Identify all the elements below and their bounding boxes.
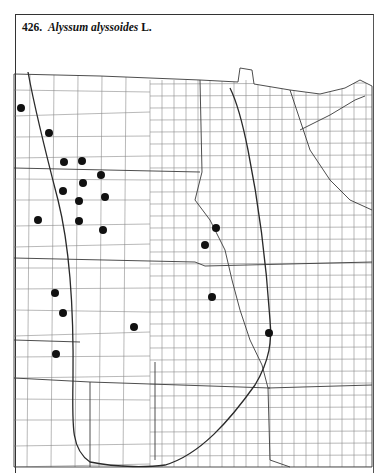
distribution-map [0,0,383,475]
occurrence-dot [60,158,68,166]
occurrence-dot [208,293,216,301]
occurrence-dots [17,104,273,358]
occurrence-dot [34,216,42,224]
occurrence-dot [79,179,87,187]
occurrence-dot [97,171,105,179]
occurrence-dot [52,350,60,358]
occurrence-dot [75,197,83,205]
occurrence-dot [59,187,67,195]
occurrence-dot [45,129,53,137]
occurrence-dot [78,157,86,165]
occurrence-dot [75,217,83,225]
occurrence-dot [101,193,109,201]
occurrence-dot [99,226,107,234]
occurrence-dot [59,309,67,317]
occurrence-dot [17,104,25,112]
occurrence-dot [130,323,138,331]
occurrence-dot [201,241,209,249]
occurrence-dot [265,329,273,337]
occurrence-dot [212,224,220,232]
occurrence-dot [51,289,59,297]
county-boundaries [14,74,372,468]
